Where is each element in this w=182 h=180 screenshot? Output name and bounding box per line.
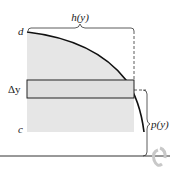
representative-strip <box>27 80 134 98</box>
label-c: c <box>18 123 23 135</box>
label-delta-y: Δy <box>8 83 21 95</box>
rotation-arrow-icon <box>154 148 166 165</box>
shell-method-diagram: h(y) d Δy c p(y) <box>0 0 182 180</box>
radius-brace <box>143 90 150 156</box>
label-d: d <box>18 25 24 37</box>
label-p-of-y: p(y) <box>150 118 169 131</box>
top-brace <box>28 24 134 31</box>
label-h-of-y: h(y) <box>71 11 89 24</box>
